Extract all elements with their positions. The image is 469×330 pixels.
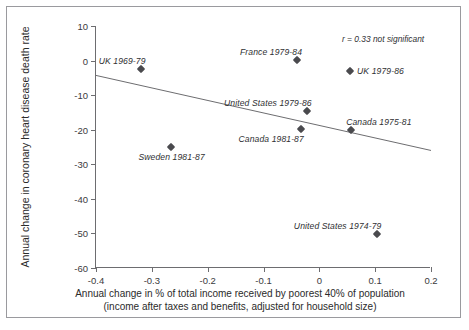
- x-axis-tick-label: -0.3: [144, 275, 160, 286]
- y-axis-tick-label: -30: [74, 159, 88, 170]
- y-axis-tick: [91, 233, 96, 234]
- x-axis-tick-label: 0.2: [424, 275, 437, 286]
- x-axis-title: Annual change in % of total income recei…: [40, 288, 440, 313]
- y-axis-tick-label: -40: [74, 193, 88, 204]
- correlation-annotation: r = 0.33 not significant: [342, 34, 424, 44]
- x-axis-tick-label: 0: [317, 275, 322, 286]
- y-axis-tick: [91, 61, 96, 62]
- data-point-label: United States 1979-86: [224, 98, 312, 108]
- x-axis-title-line2: (income after taxes and benefits, adjust…: [40, 301, 440, 314]
- y-axis-tick-label: -20: [74, 124, 88, 135]
- figure-container: Annual change in coronary heart disease …: [0, 0, 469, 330]
- y-axis-tick: [91, 26, 96, 27]
- x-axis-tick: [152, 267, 153, 272]
- y-axis-tick-label: 0: [83, 55, 88, 66]
- y-axis-tick: [91, 130, 96, 131]
- data-point-label: United States 1974-79: [294, 221, 382, 231]
- data-point-label: Sweden 1981-87: [138, 152, 204, 162]
- data-point-label: Canada 1975-81: [346, 117, 411, 127]
- plot-area: 100-10-20-30-40-50-60-0.4-0.3-0.2-0.100.…: [95, 26, 430, 268]
- y-axis-title: Annual change in coronary heart disease …: [18, 26, 32, 268]
- data-point-label: UK 1969-79: [99, 56, 146, 66]
- data-point-label: France 1979-84: [240, 47, 302, 57]
- x-axis-tick-label: 0.1: [369, 275, 382, 286]
- x-axis-tick: [96, 267, 97, 272]
- y-axis-tick: [91, 199, 96, 200]
- y-axis-tick-label: 10: [77, 21, 88, 32]
- x-axis-tick: [431, 267, 432, 272]
- data-point-label: Canada 1981-87: [238, 134, 303, 144]
- x-axis-tick: [319, 267, 320, 272]
- y-axis-tick-label: -50: [74, 228, 88, 239]
- x-axis-tick: [375, 267, 376, 272]
- y-axis-tick-label: -10: [74, 90, 88, 101]
- x-axis-tick: [264, 267, 265, 272]
- x-axis-title-line1: Annual change in % of total income recei…: [40, 288, 440, 301]
- data-point-label: UK 1979-86: [357, 66, 404, 76]
- y-axis-tick: [91, 164, 96, 165]
- y-axis-tick: [91, 95, 96, 96]
- x-axis-tick-label: -0.2: [199, 275, 215, 286]
- trendline: [96, 26, 431, 268]
- x-axis-tick: [208, 267, 209, 272]
- x-axis-tick-label: -0.4: [88, 275, 104, 286]
- y-axis-tick-label: -60: [74, 263, 88, 274]
- x-axis-tick-label: -0.1: [255, 275, 271, 286]
